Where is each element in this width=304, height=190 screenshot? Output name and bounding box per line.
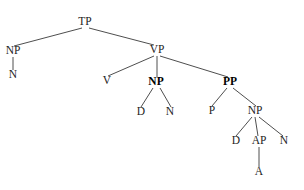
tree-node-v: V [103, 74, 112, 86]
tree-node-ap: AP [252, 134, 267, 146]
tree-node-np_obj: NP [148, 75, 163, 87]
tree-node-vp: VP [150, 43, 165, 55]
tree-node-p: P [209, 104, 215, 116]
tree-node-a: A [255, 165, 264, 177]
syntax-tree-figure: TPNPNVPVNPDNPPPNPDAPNA [0, 0, 304, 190]
tree-node-n_obj: N [166, 105, 175, 117]
tree-node-pp: PP [223, 75, 237, 87]
tree-node-d_pp: D [232, 134, 240, 146]
syntax-tree-canvas: TPNPNVPVNPDNPPPNPDAPNA [0, 0, 304, 190]
tree-node-n_pp: N [280, 134, 289, 146]
tree-node-d_obj: D [137, 105, 145, 117]
tree-node-np_pp: NP [248, 104, 263, 116]
tree-node-np_subj: NP [6, 44, 21, 56]
tree-node-tp: TP [78, 15, 91, 27]
figure-background [0, 0, 304, 190]
tree-node-n_subj: N [9, 68, 18, 80]
